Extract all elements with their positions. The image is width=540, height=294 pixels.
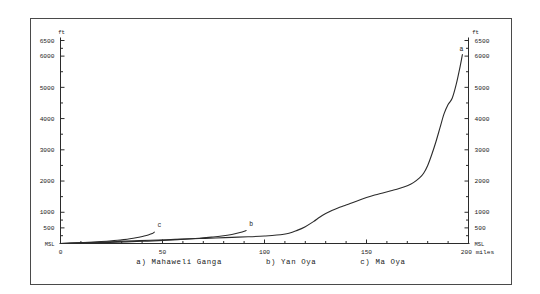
legend-item-c: c) Ma Oya (360, 258, 405, 266)
legend-item-b: b) Yan Oya (266, 258, 316, 266)
figure-frame (30, 18, 512, 285)
legend-item-a: a) Mahaweli Ganga (136, 258, 222, 266)
legend: a) Mahaweli Ganga b) Yan Oya c) Ma Oya (30, 258, 512, 266)
river-profile-figure: MSLMSL5005001000100020002000300030004000… (0, 0, 540, 294)
